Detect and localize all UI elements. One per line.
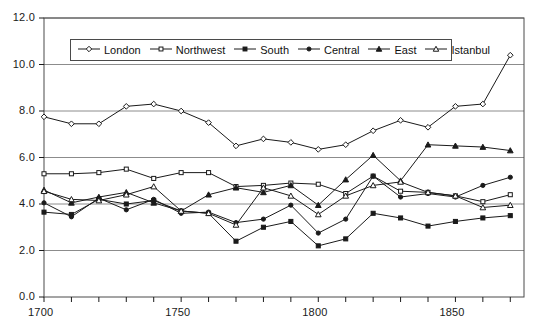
legend-label: East: [394, 44, 416, 56]
data-point-open-square: [97, 171, 101, 175]
data-point-open-triangle: [41, 188, 47, 193]
data-point-filled-square: [243, 47, 247, 51]
data-point-open-triangle: [398, 179, 404, 184]
data-point-open-diamond: [151, 101, 157, 107]
data-point-filled-square: [371, 211, 375, 215]
legend-label: South: [260, 44, 289, 56]
line-chart: LondonNorthwestSouthCentralEastIstanbul …: [0, 0, 537, 326]
data-point-filled-square: [344, 237, 348, 241]
data-point-filled-circle: [398, 195, 402, 199]
legend-marker-filled-square: [234, 43, 256, 55]
data-point-open-diamond: [261, 136, 267, 142]
legend-symbol: [234, 43, 256, 57]
data-point-open-square: [152, 176, 156, 180]
data-point-filled-circle: [261, 217, 265, 221]
data-point-filled-square: [426, 224, 430, 228]
legend-label: Central: [324, 44, 359, 56]
legend-item-istanbul[interactable]: Istanbul: [425, 43, 499, 57]
series-line: [44, 169, 510, 202]
data-point-open-square: [316, 182, 320, 186]
series-east: [41, 142, 513, 213]
legend-symbol: [368, 43, 390, 57]
legend-symbol: [298, 43, 320, 57]
series-london: [41, 52, 513, 152]
x-axis-tick-label: 1850: [439, 306, 464, 318]
data-point-open-triangle: [151, 184, 157, 189]
data-point-open-diamond: [86, 46, 91, 51]
data-point-open-diamond: [178, 108, 184, 114]
y-axis-tick-label: 2.0: [0, 244, 35, 256]
legend-symbol: [150, 43, 172, 57]
data-point-filled-square: [261, 225, 265, 229]
data-point-open-triangle: [434, 46, 439, 51]
data-point-filled-square: [42, 210, 46, 214]
legend-symbol: [425, 43, 447, 57]
data-point-open-diamond: [123, 104, 129, 110]
y-axis-tick-label: 6.0: [0, 151, 35, 163]
data-point-filled-circle: [344, 217, 348, 221]
legend-label: Istanbul: [451, 44, 490, 56]
data-point-filled-square: [316, 244, 320, 248]
data-point-filled-triangle: [206, 192, 212, 197]
data-point-filled-circle: [289, 203, 293, 207]
legend-item-east[interactable]: East: [368, 43, 425, 57]
legend-item-northwest[interactable]: Northwest: [150, 43, 235, 57]
data-point-open-diamond: [315, 147, 321, 153]
legend-marker-filled-circle: [298, 43, 320, 55]
series-line: [44, 182, 510, 225]
x-axis-tick-label: 1700: [28, 306, 53, 318]
legend-item-central[interactable]: Central: [298, 43, 368, 57]
data-point-open-diamond: [343, 142, 349, 148]
series-istanbul: [41, 179, 513, 227]
x-axis-tick-label: 1750: [165, 306, 190, 318]
data-point-filled-circle: [69, 215, 73, 219]
chart-legend: LondonNorthwestSouthCentralEastIstanbul: [70, 39, 452, 61]
legend-item-south[interactable]: South: [234, 43, 298, 57]
data-point-filled-square: [399, 216, 403, 220]
data-point-open-square: [159, 47, 163, 51]
data-point-filled-triangle: [377, 46, 382, 51]
data-point-open-triangle: [69, 197, 75, 202]
data-point-open-square: [42, 172, 46, 176]
legend-symbol: [78, 43, 100, 57]
series-line: [44, 199, 510, 246]
data-point-open-square: [69, 172, 73, 176]
data-point-filled-triangle: [507, 148, 513, 153]
legend-marker-open-square: [150, 43, 172, 55]
data-point-filled-circle: [371, 174, 375, 178]
data-point-filled-circle: [481, 183, 485, 187]
series-central: [42, 174, 512, 235]
data-point-filled-square: [508, 214, 512, 218]
data-point-filled-triangle: [480, 144, 486, 149]
x-axis-tick-label: 1800: [302, 306, 327, 318]
data-point-open-square: [399, 189, 403, 193]
y-axis-tick-label: 8.0: [0, 104, 35, 116]
y-axis-tick-label: 10.0: [0, 58, 35, 70]
data-point-filled-circle: [42, 201, 46, 205]
legend-marker-open-diamond: [78, 43, 100, 55]
data-point-open-square: [179, 171, 183, 175]
data-point-filled-triangle: [425, 142, 431, 147]
data-point-filled-square: [481, 216, 485, 220]
legend-marker-filled-triangle: [368, 43, 390, 55]
data-point-open-triangle: [507, 202, 513, 207]
series-northwest: [42, 167, 512, 204]
data-point-filled-circle: [307, 47, 311, 51]
data-point-filled-square: [453, 219, 457, 223]
data-point-filled-triangle: [370, 152, 376, 157]
y-axis-tick-label: 4.0: [0, 197, 35, 209]
legend-label: Northwest: [176, 44, 226, 56]
data-point-filled-square: [289, 219, 293, 223]
data-point-open-square: [508, 193, 512, 197]
legend-label: London: [104, 44, 141, 56]
legend-item-london[interactable]: London: [78, 43, 150, 57]
data-point-open-diamond: [398, 117, 404, 123]
y-axis-tick-label: 12.0: [0, 11, 35, 23]
data-point-open-triangle: [370, 183, 376, 188]
data-point-open-square: [481, 200, 485, 204]
series-south: [42, 197, 512, 248]
y-axis-tick-label: 0.0: [0, 290, 35, 302]
data-point-open-diamond: [96, 121, 102, 127]
data-point-filled-square: [124, 202, 128, 206]
data-point-open-diamond: [370, 128, 376, 134]
